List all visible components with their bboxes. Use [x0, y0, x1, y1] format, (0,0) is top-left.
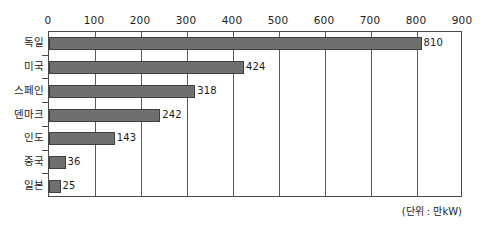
bar-value-label: 242: [162, 108, 181, 122]
plot-area: 8104243182421433625: [48, 31, 462, 197]
bar-덴마크: [49, 109, 160, 122]
x-tick-700: 700: [360, 14, 381, 26]
bar-value-label: 424: [246, 60, 265, 74]
x-tick-400: 400: [222, 14, 243, 26]
horizontal-bar-chart: 0100200300400500600700800900 독일미국스페인덴마크인…: [0, 0, 481, 230]
bar-row: 242: [49, 109, 463, 122]
bar-value-label: 143: [117, 131, 136, 145]
bar-value-label: 25: [63, 179, 76, 193]
bar-row: 143: [49, 132, 463, 145]
category-label-미국: 미국: [0, 60, 44, 73]
category-label-일본: 일본: [0, 179, 44, 192]
bar-row: 318: [49, 85, 463, 98]
category-label-스페인: 스페인: [0, 84, 44, 97]
x-tick-200: 200: [130, 14, 151, 26]
bar-value-label: 36: [68, 155, 81, 169]
x-tick-300: 300: [176, 14, 197, 26]
x-tick-900: 900: [452, 14, 473, 26]
bar-스페인: [49, 85, 195, 98]
x-tick-500: 500: [268, 14, 289, 26]
category-label-독일: 독일: [0, 36, 44, 49]
bar-일본: [49, 180, 61, 193]
bar-인도: [49, 132, 115, 145]
category-label-인도: 인도: [0, 131, 44, 144]
bar-value-label: 810: [424, 36, 443, 50]
category-label-덴마크: 덴마크: [0, 108, 44, 121]
bar-독일: [49, 37, 422, 50]
bar-중국: [49, 156, 66, 169]
bar-value-label: 318: [197, 84, 216, 98]
x-tick-800: 800: [406, 14, 427, 26]
bar-row: 424: [49, 61, 463, 74]
unit-note: (단위 : 만kW): [402, 206, 462, 218]
bar-row: 810: [49, 37, 463, 50]
x-tick-0: 0: [45, 14, 52, 26]
x-tick-100: 100: [84, 14, 105, 26]
bar-row: 36: [49, 156, 463, 169]
x-tick-600: 600: [314, 14, 335, 26]
bar-미국: [49, 61, 244, 74]
category-label-중국: 중국: [0, 155, 44, 168]
bar-row: 25: [49, 180, 463, 193]
